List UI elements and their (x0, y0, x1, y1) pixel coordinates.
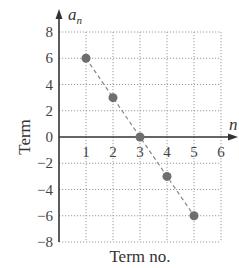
data-point (82, 54, 91, 63)
y-axis-label: Term (15, 119, 34, 155)
y-tick-label: −4 (37, 182, 53, 198)
data-point (190, 211, 199, 220)
x-tick-label: 4 (163, 144, 171, 160)
sequence-chart: 12345686420−2−4−6−8 Term Term no. an n (0, 0, 238, 268)
y-tick-label: −6 (37, 208, 53, 224)
y-tick-label: 8 (46, 24, 54, 40)
data-point (109, 93, 118, 102)
x-tick-label: 3 (136, 144, 144, 160)
y-tick-label: 4 (46, 77, 54, 93)
data-point (163, 172, 172, 181)
y-tick-label: 6 (46, 50, 54, 66)
y-tick-label: 0 (46, 129, 54, 145)
x-tick-label: 1 (82, 144, 90, 160)
x-axis-label: Term no. (109, 247, 170, 266)
x-tick-label: 6 (217, 144, 225, 160)
x-tick-label: 5 (190, 144, 198, 160)
x-axis-arrow-icon (228, 134, 238, 141)
y-tick-label: 2 (46, 103, 54, 119)
y-tick-label: −8 (37, 234, 53, 250)
y-axis-symbol: an (68, 5, 83, 26)
x-axis-symbol: n (229, 115, 238, 134)
y-tick-label: −2 (37, 155, 53, 171)
data-point (136, 133, 145, 142)
x-tick-label: 2 (109, 144, 117, 160)
axes (56, 9, 239, 242)
y-axis-arrow-icon (56, 9, 63, 19)
